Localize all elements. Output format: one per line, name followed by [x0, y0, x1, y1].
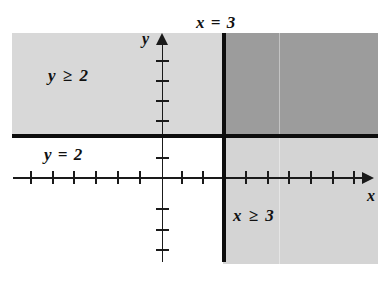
- y-tick-mark: [156, 229, 169, 231]
- label-y-equals-2-text: y = 2: [44, 145, 83, 164]
- x-tick-mark: [332, 171, 334, 184]
- y-tick-mark: [156, 208, 169, 210]
- boundary-line-x-equals-3: [222, 33, 226, 262]
- x-tick-mark: [52, 171, 54, 184]
- x-axis-arrow-icon: [362, 172, 374, 184]
- x-tick-mark: [139, 171, 141, 184]
- label-region-y-ge-2-text: y ≥ 2: [48, 66, 89, 85]
- label-y-equals-2: y = 2: [44, 145, 83, 165]
- label-region-y-ge-2: y ≥ 2: [48, 66, 89, 86]
- shaded-region-x-ge-3: [223, 137, 378, 264]
- label-x-equals-3-text: x = 3: [196, 13, 236, 32]
- x-axis-label: x: [367, 187, 375, 205]
- boundary-line-y-equals-2: [12, 134, 378, 138]
- x-tick-mark: [267, 171, 269, 184]
- y-tick-mark: [156, 157, 169, 159]
- x-axis-line: [13, 177, 368, 179]
- label-region-x-ge-3: x ≥ 3: [233, 206, 275, 226]
- y-tick-mark: [156, 100, 169, 102]
- x-tick-mark: [245, 171, 247, 184]
- x-tick-mark: [310, 171, 312, 184]
- x-tick-mark: [117, 171, 119, 184]
- x-tick-mark: [30, 171, 32, 184]
- y-axis-arrow-icon: [156, 33, 168, 45]
- x-tick-mark: [353, 171, 355, 184]
- x-tick-mark: [95, 171, 97, 184]
- label-region-x-ge-3-text: x ≥ 3: [233, 206, 275, 225]
- x-tick-mark: [202, 171, 204, 184]
- y-tick-mark: [156, 60, 169, 62]
- y-tick-mark: [156, 120, 169, 122]
- inequality-graph-figure: x = 3 y = 2 y ≥ 2 x ≥ 3 y x: [0, 0, 391, 284]
- x-tick-mark: [181, 171, 183, 184]
- scan-seam-artifact: [279, 33, 280, 264]
- shaded-region-solution-set: [223, 33, 378, 135]
- y-tick-mark: [156, 80, 169, 82]
- y-tick-mark: [156, 249, 169, 251]
- x-tick-mark: [288, 171, 290, 184]
- x-tick-mark: [73, 171, 75, 184]
- label-x-equals-3: x = 3: [196, 13, 236, 33]
- y-axis-label: y: [142, 30, 149, 48]
